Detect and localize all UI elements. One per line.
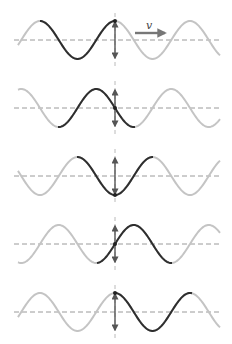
particle-dot: [113, 291, 117, 295]
snapshot-5: [14, 285, 222, 339]
wave-snapshots: [14, 13, 222, 339]
particle-dot: [113, 106, 117, 110]
snapshot-2: [14, 81, 222, 135]
wave-diagram: v: [0, 0, 232, 344]
particle-dot: [113, 242, 117, 246]
particle-dot: [113, 193, 117, 197]
particle-dot: [113, 19, 117, 23]
snapshot-4: [14, 217, 222, 271]
snapshot-1: [14, 13, 222, 67]
velocity-arrow: v: [135, 19, 165, 33]
velocity-label: v: [146, 19, 153, 32]
snapshot-3: [14, 149, 222, 203]
